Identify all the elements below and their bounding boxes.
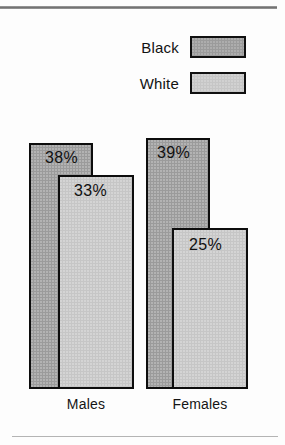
- bottom-divider-rule: [12, 436, 278, 437]
- bar-value-label-males-white: 33%: [74, 182, 107, 200]
- category-label-females: Females: [148, 396, 252, 412]
- bar-value-label-females-black: 39%: [157, 144, 190, 162]
- bar-value-label-females-white: 25%: [189, 236, 222, 254]
- bar-males-white: [58, 175, 134, 389]
- bar-chart-figure: Black White 38%33%39%25%MalesFemales: [0, 0, 285, 445]
- category-label-males: Males: [36, 396, 136, 412]
- plot-area: 38%33%39%25%MalesFemales: [0, 0, 285, 445]
- bar-value-label-males-black: 38%: [45, 149, 78, 167]
